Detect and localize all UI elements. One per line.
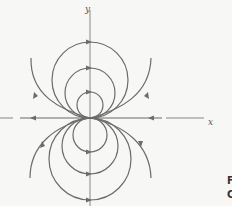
flow-arrow-icons: [30, 40, 154, 203]
x-axis-label: x: [208, 117, 213, 127]
caption-fragment-2: C: [227, 189, 232, 200]
phase-portrait-diagram: [0, 0, 232, 206]
outer-arc-upper-left: [31, 58, 90, 118]
outer-arc-lower-left: [30, 118, 90, 178]
caption-fragment-1: F: [227, 175, 232, 186]
y-axis-label: y: [85, 4, 90, 14]
outer-arc-upper-right: [90, 58, 151, 118]
outer-arc-lower-right: [90, 118, 151, 178]
